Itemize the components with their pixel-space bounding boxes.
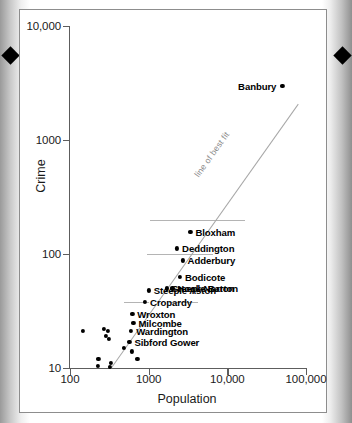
y-axis-tick-label: 100 [42,248,61,260]
y-axis-tick [63,26,70,27]
data-point-label: Bloxham [195,227,235,238]
data-point-label: Bodicote [185,271,225,282]
y-axis-tick [63,140,70,141]
y-axis-tick [63,368,70,369]
data-point-deddington [175,246,179,250]
data-point-label: Wardington [136,326,188,337]
x-axis-title: Population [69,392,305,406]
data-point [96,357,100,361]
data-point-label: Steeple Aston [154,285,216,296]
data-point [135,357,139,361]
data-point-bloxham [188,230,192,234]
data-point-steeple-aston [147,288,151,292]
data-point-label: Deddington [182,243,234,254]
data-point [81,329,85,333]
x-axis-tick-label: 100 [61,373,80,385]
x-axis-tick-label: 100,000 [286,373,327,385]
y-axis-tick [63,254,70,255]
plot-area: 10100100010,000100100010,000100,000line … [69,26,306,369]
data-point [105,329,109,333]
label-leader-rule [150,220,245,221]
data-point [96,364,100,368]
data-point-label: Adderbury [188,255,236,266]
data-point-label: Cropardy [150,296,192,307]
registration-diamond-left-icon [1,46,19,64]
y-axis-tick-label: 10 [48,362,61,374]
data-point-bodicote [178,275,182,279]
data-point [107,337,111,341]
data-point-milcombe [131,321,135,325]
data-point-wardington [129,329,133,333]
y-axis-tick-label: 1000 [36,134,61,146]
y-axis-tick-label: 10,000 [26,20,61,32]
registration-diamond-right-icon [333,46,351,64]
scanned-figure-page: Crime Population 10100100010,00010010001… [0,0,352,423]
x-axis-tick-label: 10,000 [210,373,245,385]
data-point [130,349,134,353]
scatter-chart: Crime Population 10100100010,00010010001… [19,9,327,413]
data-point-wroxton [130,312,134,316]
data-point-sibford-gower [127,340,131,344]
x-axis-tick-label: 1000 [136,373,161,385]
data-point-cropardy [143,300,147,304]
data-point-adderbury [181,258,185,262]
data-point-label: Banbury [238,80,276,91]
data-point-banbury [280,84,284,88]
line-of-best-fit-label: line of best fit [192,129,231,178]
data-point-label: Sibford Gower [134,336,199,347]
